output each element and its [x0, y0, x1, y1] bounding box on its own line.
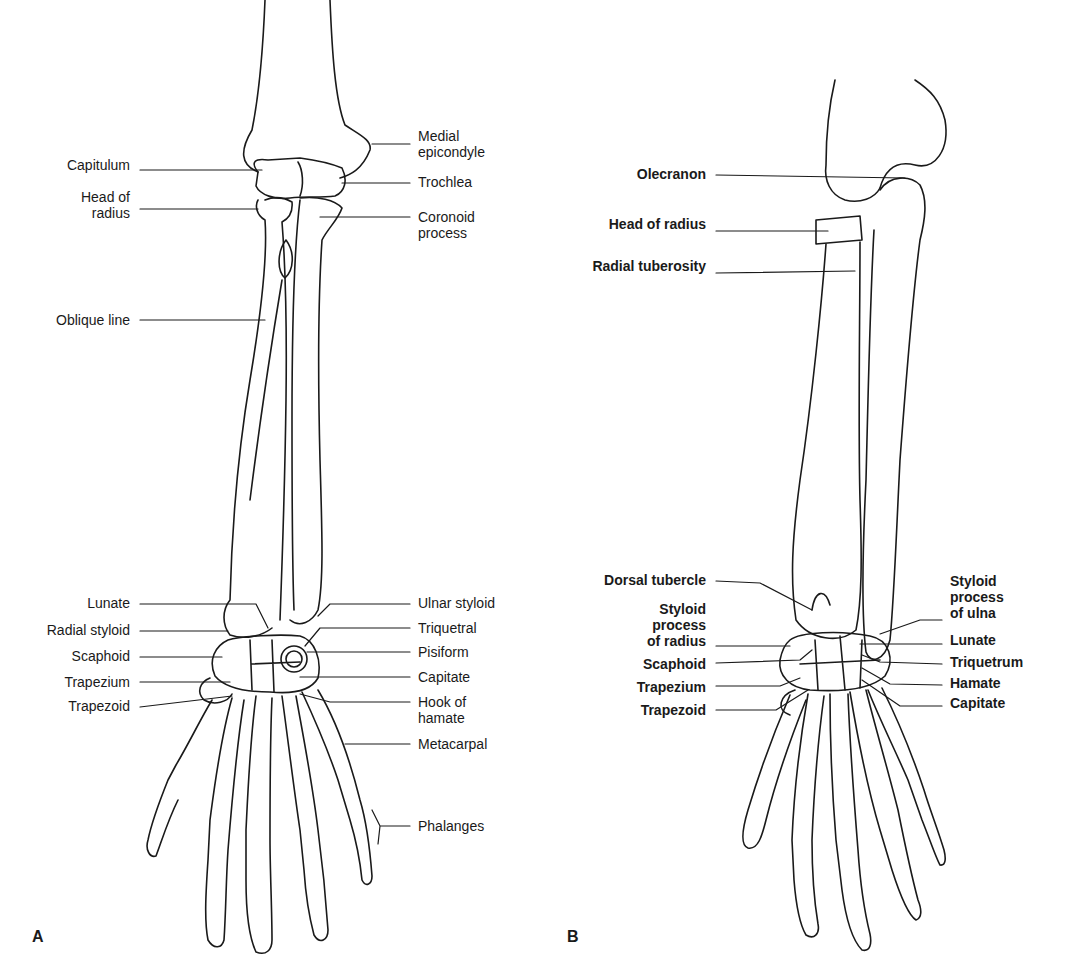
panel-label-a: A: [32, 928, 44, 946]
label-head-of-radius-b: Head of radius: [609, 216, 706, 232]
label-hamate: Hamate: [950, 675, 1001, 691]
label-radial-styloid: Radial styloid: [47, 622, 130, 638]
panel-b-drawing: [716, 80, 946, 950]
label-lunate: Lunate: [87, 595, 130, 611]
label-phalanges: Phalanges: [418, 818, 484, 834]
label-trapezoid: Trapezoid: [68, 698, 130, 714]
forearm-bones-illustration: [0, 0, 1065, 971]
label-trapezium-b: Trapezium: [637, 679, 706, 695]
label-coronoid-process: Coronoid process: [418, 209, 475, 241]
label-pisiform: Pisiform: [418, 644, 469, 660]
label-olecranon: Olecranon: [637, 166, 706, 182]
label-trapezoid-b: Trapezoid: [641, 702, 706, 718]
label-medial-epicondyle: Medial epicondyle: [418, 128, 485, 160]
label-triquetral: Triquetral: [418, 620, 477, 636]
label-head-of-radius: Head of radius: [81, 189, 130, 221]
label-scaphoid: Scaphoid: [72, 648, 130, 664]
label-styloid-process-of-ulna: Styloid process of ulna: [950, 573, 1004, 621]
label-trochlea: Trochlea: [418, 174, 472, 190]
label-lunate-b: Lunate: [950, 632, 996, 648]
label-oblique-line: Oblique line: [56, 312, 130, 328]
label-hook-of-hamate: Hook of hamate: [418, 694, 466, 726]
label-capitate-b: Capitate: [950, 695, 1005, 711]
label-radial-tuberosity: Radial tuberosity: [592, 258, 706, 274]
label-dorsal-tubercle: Dorsal tubercle: [604, 572, 706, 588]
panel-a-hand: [147, 690, 372, 953]
label-metacarpal: Metacarpal: [418, 736, 487, 752]
label-styloid-process-of-radius: Styloid process of radius: [647, 601, 706, 649]
label-ulnar-styloid: Ulnar styloid: [418, 595, 495, 611]
panel-label-b: B: [567, 928, 579, 946]
panel-a-drawing: [140, 0, 410, 953]
label-triquetrum: Triquetrum: [950, 654, 1023, 670]
panel-b-hand: [743, 688, 945, 950]
label-trapezium: Trapezium: [64, 674, 130, 690]
label-capitate: Capitate: [418, 669, 470, 685]
label-scaphoid-b: Scaphoid: [643, 656, 706, 672]
label-capitulum: Capitulum: [67, 157, 130, 173]
